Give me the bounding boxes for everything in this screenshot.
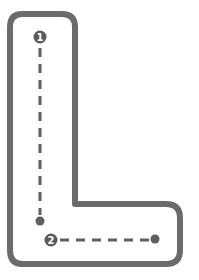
letter-l-tracing-diagram: 1 2 <box>0 0 199 280</box>
stroke-1-number: 1 <box>37 32 44 43</box>
stroke-2-end-dot <box>151 235 160 244</box>
letter-l-svg: 1 2 <box>0 0 199 280</box>
stroke-2-number: 2 <box>48 235 55 246</box>
letter-outline <box>10 14 180 264</box>
stroke-1-end-dot <box>36 217 45 226</box>
stroke-1-badge: 1 <box>34 31 47 44</box>
stroke-2-badge: 2 <box>45 234 58 247</box>
